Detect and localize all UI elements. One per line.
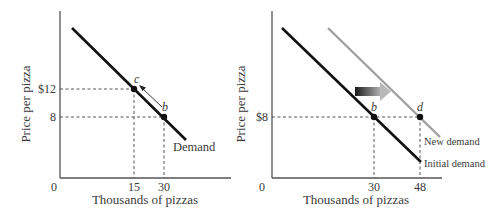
left-point-b xyxy=(161,114,167,120)
right-point-b-label: b xyxy=(371,100,377,114)
right-origin: 0 xyxy=(259,180,265,194)
right-new-demand-curve xyxy=(328,28,440,137)
right-xtick-48: 48 xyxy=(414,180,426,194)
right-y-axis-label: Price per pizza xyxy=(233,65,248,142)
chart-canvas: c b Demand $12 8 0 15 30 Thousands of pi… xyxy=(0,0,497,220)
left-point-b-label: b xyxy=(162,100,168,114)
left-point-c xyxy=(131,86,137,92)
right-initial-demand-label: Initial demand xyxy=(424,158,486,169)
left-ytick-12: $12 xyxy=(38,82,56,96)
left-x-axis-label: Thousands of pizzas xyxy=(92,192,198,207)
left-y-axis-label: Price per pizza xyxy=(18,65,33,142)
right-x-axis-label: Thousands of pizzas xyxy=(303,192,409,207)
left-demand-curve xyxy=(72,28,186,140)
left-movement-arrow xyxy=(142,88,162,107)
left-chart: c b Demand $12 8 0 15 30 Thousands of pi… xyxy=(18,11,231,207)
left-origin: 0 xyxy=(51,180,57,194)
left-ytick-8: 8 xyxy=(50,110,56,124)
right-new-demand-label: New demand xyxy=(424,136,480,147)
right-point-d xyxy=(417,114,423,120)
left-demand-label: Demand xyxy=(173,140,216,154)
right-chart: b d New demand Initial demand $8 0 30 48… xyxy=(233,11,486,207)
left-movement-arrowhead xyxy=(139,85,146,91)
right-ytick-8: $8 xyxy=(256,110,268,124)
left-point-c-label: c xyxy=(134,72,140,86)
right-initial-demand-curve xyxy=(282,28,421,162)
right-point-d-label: d xyxy=(417,100,424,114)
right-point-b xyxy=(371,114,377,120)
